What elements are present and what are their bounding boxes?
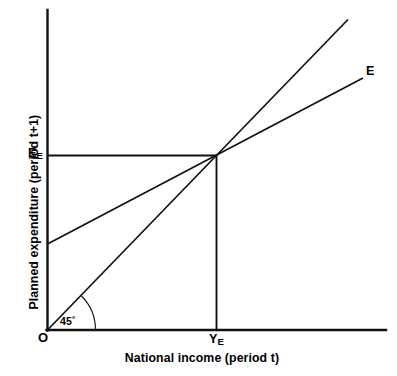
forty-five-degree-line (48, 20, 349, 331)
angle-value: 45 (60, 315, 72, 327)
degree-symbol: ° (72, 315, 75, 324)
planned-expenditure-line (48, 78, 364, 244)
y-axis-title: Planned expenditure (period t+1) (28, 92, 40, 332)
x-axis-title: National income (period t) (97, 352, 307, 364)
ye-base: Y (209, 332, 218, 346)
expenditure-curve-label: E (366, 65, 375, 78)
angle-label: 45° (60, 316, 75, 327)
ee-subscript: E (37, 150, 43, 161)
angle-arc-icon (82, 296, 96, 330)
origin-label: O (38, 331, 48, 344)
keynesian-cross-figure: Planned expenditure (period t+1) Nationa… (0, 0, 397, 376)
y-axis-tick-label-ee: EE (28, 147, 43, 161)
x-axis-tick-label-ye: YE (209, 333, 224, 347)
ee-base: E (28, 146, 37, 160)
ye-subscript: E (218, 336, 224, 347)
